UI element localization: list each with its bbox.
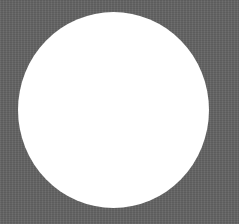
- gray-background: [0, 0, 239, 224]
- white-circle: [18, 12, 209, 208]
